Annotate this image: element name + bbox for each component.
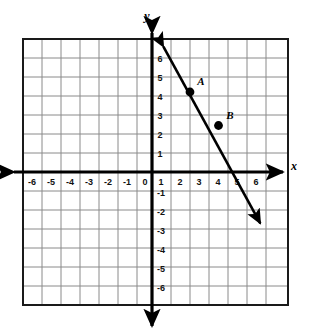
y-axis-label: y — [142, 9, 150, 23]
point-a-marker — [186, 88, 195, 97]
point-b-label: B — [225, 109, 233, 121]
y-tick-4: 4 — [157, 92, 162, 102]
x-tick--3: -3 — [85, 177, 93, 187]
x-tick-0: 0 — [142, 177, 147, 187]
x-tick--2: -2 — [104, 177, 112, 187]
x-tick--4: -4 — [66, 177, 74, 187]
plotted-line-ab — [163, 47, 260, 224]
x-axis-label: x — [290, 159, 297, 173]
y-tick-6: 6 — [157, 54, 162, 64]
x-tick--5: -5 — [47, 177, 55, 187]
y-tick--2: -2 — [157, 207, 165, 217]
y-tick--3: -3 — [157, 226, 165, 236]
x-tick-4: 4 — [215, 177, 220, 187]
coordinate-graph-figure: x y -6 -5 -4 -3 -2 -1 0 1 2 3 4 5 6 6 5 … — [0, 0, 311, 334]
x-tick-labels: -6 -5 -4 -3 -2 -1 0 1 2 3 4 5 6 — [28, 177, 259, 187]
point-b-marker — [214, 121, 223, 130]
x-tick-6: 6 — [253, 177, 258, 187]
x-tick--1: -1 — [123, 177, 131, 187]
point-a-label: A — [196, 75, 204, 87]
y-tick-3: 3 — [157, 111, 162, 121]
y-tick-5: 5 — [157, 73, 162, 83]
x-tick--6: -6 — [28, 177, 36, 187]
y-tick--1: -1 — [157, 188, 165, 198]
x-tick-2: 2 — [177, 177, 182, 187]
coordinate-plane-svg: x y -6 -5 -4 -3 -2 -1 0 1 2 3 4 5 6 6 5 … — [0, 0, 311, 334]
x-tick-3: 3 — [196, 177, 201, 187]
y-tick--6: -6 — [157, 283, 165, 293]
y-tick--5: -5 — [157, 264, 165, 274]
y-tick-1: 1 — [157, 149, 162, 159]
y-tick-2: 2 — [157, 130, 162, 140]
y-tick--4: -4 — [157, 245, 165, 255]
x-tick-1: 1 — [158, 177, 163, 187]
